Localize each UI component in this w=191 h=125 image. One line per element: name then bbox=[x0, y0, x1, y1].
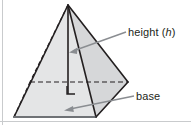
height-label-paren-close: ) bbox=[172, 26, 176, 38]
height-label-word: height bbox=[128, 26, 159, 38]
pyramid-figure: height (h) base bbox=[0, 0, 191, 125]
height-label: height (h) bbox=[128, 26, 175, 38]
base-label: base bbox=[136, 90, 160, 102]
pyramid-diagram-svg: height (h) base bbox=[0, 0, 191, 125]
